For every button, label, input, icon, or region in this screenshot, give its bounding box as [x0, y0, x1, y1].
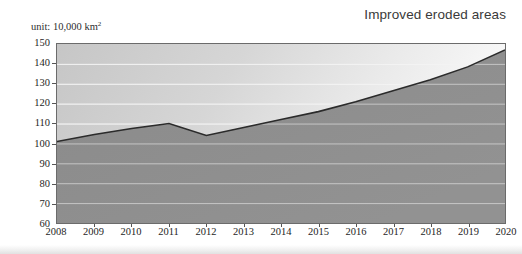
x-tick-label: 2010	[121, 227, 142, 238]
unit-label-exponent: 2	[98, 20, 102, 28]
y-tick-label: 150	[24, 38, 50, 49]
chart-title: Improved eroded areas	[364, 7, 506, 22]
y-axis-tick-labels: 15014013012011010090807060	[22, 43, 50, 224]
y-tick-label: 110	[24, 118, 50, 129]
y-tick-label: 120	[24, 98, 50, 109]
unit-label: unit: 10,000 km2	[31, 21, 101, 32]
x-tick-label: 2017	[383, 227, 404, 238]
y-tick-label: 90	[24, 158, 50, 169]
y-tick-label: 70	[24, 199, 50, 210]
x-tick-label: 2011	[158, 227, 179, 238]
x-axis-tick-labels: 2008200920102011201220132014201520162017…	[56, 227, 506, 243]
scan-edge-artifact	[0, 245, 522, 254]
x-tick-label: 2020	[496, 227, 517, 238]
y-tick-label: 140	[24, 58, 50, 69]
plot-area	[56, 43, 506, 224]
x-tick-label: 2018	[421, 227, 442, 238]
x-tick-label: 2019	[458, 227, 479, 238]
y-tick-label: 80	[24, 179, 50, 190]
chart-figure: Improved eroded areas unit: 10,000 km2 1…	[0, 0, 522, 254]
y-tick-label: 130	[24, 78, 50, 89]
x-tick-label: 2016	[346, 227, 367, 238]
area-chart-svg	[57, 44, 505, 223]
x-tick-label: 2008	[46, 227, 67, 238]
unit-label-text: unit: 10,000 km	[31, 21, 98, 32]
x-tick-label: 2009	[83, 227, 104, 238]
x-tick-label: 2013	[233, 227, 254, 238]
x-tick-label: 2014	[271, 227, 292, 238]
y-tick-label: 100	[24, 138, 50, 149]
x-tick-label: 2012	[196, 227, 217, 238]
x-tick-label: 2015	[308, 227, 329, 238]
